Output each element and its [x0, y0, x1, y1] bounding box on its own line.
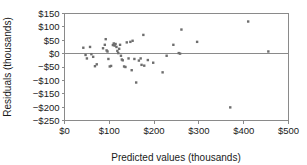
data-point: [143, 64, 145, 66]
y-tick-label: $50: [44, 35, 60, 46]
data-point: [139, 57, 141, 59]
x-tick-label: $100: [99, 125, 120, 136]
data-point: [152, 62, 154, 64]
data-point: [96, 63, 98, 65]
data-point: [84, 54, 86, 56]
data-point: [105, 38, 107, 40]
data-point: [138, 59, 140, 61]
data-point: [142, 34, 144, 36]
x-axis-title: Predicted values (thousands): [111, 152, 241, 163]
data-point: [122, 59, 124, 61]
data-point: [140, 64, 142, 66]
y-tick-label: −$200: [33, 102, 60, 113]
x-axis-tick-labels: $0$100$200$300$400$500: [59, 125, 299, 136]
data-point: [82, 47, 84, 49]
data-point: [102, 47, 104, 49]
data-point: [267, 50, 269, 52]
data-point: [247, 20, 249, 22]
plot-box: [65, 14, 289, 121]
data-point: [161, 71, 163, 73]
data-point: [92, 56, 94, 58]
data-point: [126, 41, 128, 43]
residual-plot-figure: $150$100$50$0−$50−$100−$150−$200−$250 $0…: [0, 0, 307, 165]
x-tick-label: $400: [233, 125, 254, 136]
data-point: [131, 69, 133, 71]
data-point: [196, 41, 198, 43]
data-point: [116, 50, 118, 52]
data-point: [133, 58, 135, 60]
y-tick-label: −$250: [33, 115, 60, 126]
data-point: [180, 28, 182, 30]
data-point: [106, 50, 108, 52]
data-point: [127, 57, 129, 59]
scatter-chart: $150$100$50$0−$50−$100−$150−$200−$250 $0…: [0, 0, 307, 165]
y-tick-label: −$50: [38, 61, 59, 72]
data-point: [118, 48, 120, 50]
data-point: [179, 52, 181, 54]
data-point: [165, 55, 167, 57]
data-point: [124, 66, 126, 68]
y-axis-tick-labels: $150$100$50$0−$50−$100−$150−$200−$250: [33, 8, 60, 126]
data-point: [119, 44, 121, 46]
y-tick-label: −$100: [33, 75, 60, 86]
data-point: [107, 58, 109, 60]
data-point: [172, 44, 174, 46]
data-point: [89, 46, 91, 48]
x-tick-label: $500: [278, 125, 299, 136]
data-point: [120, 55, 122, 57]
data-point: [110, 65, 112, 67]
y-tick-label: $0: [49, 48, 60, 59]
data-point: [104, 44, 106, 46]
x-tick-label: $200: [144, 125, 165, 136]
tick-marks: [62, 14, 289, 124]
data-point: [147, 59, 149, 61]
data-point: [117, 52, 119, 54]
y-tick-label: $100: [38, 21, 59, 32]
plot-frame: [65, 14, 289, 121]
data-point: [86, 57, 88, 59]
x-tick-label: $300: [188, 125, 209, 136]
data-point: [90, 53, 92, 55]
data-point-group: [82, 20, 269, 108]
y-tick-label: $150: [38, 8, 59, 19]
y-tick-label: −$150: [33, 88, 60, 99]
data-point: [114, 43, 116, 45]
data-point: [115, 46, 117, 48]
y-axis-title: Residuals (thousands): [2, 17, 13, 117]
data-point: [135, 81, 137, 83]
data-point: [131, 40, 133, 42]
data-point: [229, 106, 231, 108]
data-point: [129, 41, 131, 43]
x-tick-label: $0: [59, 125, 70, 136]
